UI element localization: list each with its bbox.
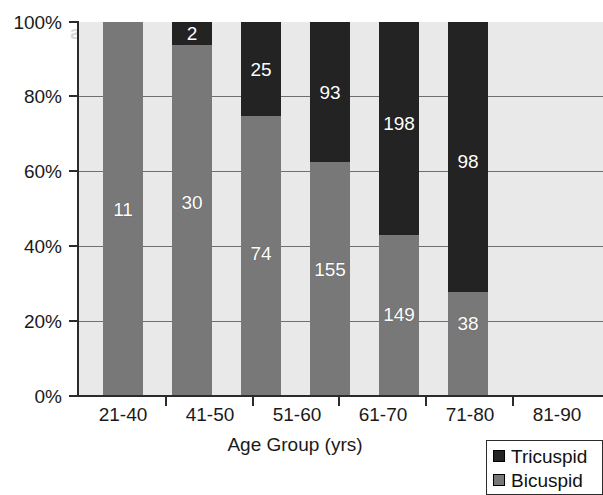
bar-81-90-bicuspid[interactable]: 38	[448, 292, 488, 396]
legend-item-tricuspid[interactable]: Tricuspid	[493, 444, 602, 468]
y-axis-line	[77, 21, 79, 397]
y-axis-label-80: 80%	[0, 87, 62, 106]
x-axis-label-51-60: 51-60	[252, 404, 342, 426]
legend-swatch-bicuspid-icon	[493, 474, 505, 486]
bar-81-90-bicuspid-value: 38	[457, 314, 478, 333]
bar-81-90-tricuspid-value: 98	[457, 152, 478, 171]
chart-canvas: se Distribution by Stenosis te for roup …	[0, 0, 603, 495]
bar-21-40-bicuspid-value: 11	[113, 200, 133, 219]
y-axis-label-100: 100%	[0, 13, 62, 32]
y-tick-80	[69, 95, 78, 97]
bar-61-70-bicuspid-value: 155	[314, 260, 346, 279]
y-axis-label-0: 0%	[0, 387, 62, 406]
bar-21-40-bicuspid[interactable]: 11	[103, 22, 143, 396]
y-tick-100	[69, 21, 78, 23]
bar-21-40[interactable]: 0 11	[103, 22, 143, 396]
bar-81-90[interactable]: 98 38	[448, 22, 488, 396]
bar-41-50-bicuspid-value: 30	[181, 193, 202, 212]
bar-71-80-tricuspid-value: 198	[383, 114, 415, 133]
y-tick-20	[69, 320, 78, 322]
y-axis-label-20: 20%	[0, 312, 62, 331]
y-axis-label-40: 40%	[0, 237, 62, 256]
chart-legend: Tricuspid Bicuspid	[486, 440, 603, 495]
bar-71-80[interactable]: 198 149	[379, 22, 419, 396]
bar-51-60-bicuspid-value: 74	[250, 244, 271, 263]
bar-51-60-tricuspid-value: 25	[250, 60, 271, 79]
legend-label-tricuspid: Tricuspid	[511, 447, 587, 466]
bar-41-50-tricuspid-value: 2	[187, 24, 198, 43]
x-axis-label-61-70: 61-70	[338, 404, 428, 426]
y-axis-tick-labels: 100% 80% 60% 40% 20% 0%	[0, 0, 68, 495]
bar-41-50[interactable]: 2 30	[172, 22, 212, 396]
bar-71-80-tricuspid[interactable]: 198	[379, 22, 419, 235]
bar-51-60[interactable]: 25 74	[241, 22, 281, 396]
plot-area: 0 11 2 30 25 74 93	[78, 22, 603, 396]
y-tick-60	[69, 170, 78, 172]
x-axis-title: Age Group (yrs)	[165, 434, 425, 456]
bar-41-50-bicuspid[interactable]: 30	[172, 45, 212, 396]
bar-71-80-bicuspid-value: 149	[383, 305, 415, 324]
legend-item-bicuspid[interactable]: Bicuspid	[493, 468, 602, 492]
y-tick-0	[69, 395, 78, 397]
bar-61-70-bicuspid[interactable]: 155	[310, 162, 350, 396]
legend-label-bicuspid: Bicuspid	[511, 471, 583, 490]
bar-61-70[interactable]: 93 155	[310, 22, 350, 396]
bar-61-70-tricuspid[interactable]: 93	[310, 22, 350, 162]
y-tick-40	[69, 245, 78, 247]
bar-51-60-tricuspid[interactable]: 25	[241, 22, 281, 116]
x-axis-label-81-90: 81-90	[512, 404, 602, 426]
bar-51-60-bicuspid[interactable]: 74	[241, 116, 281, 396]
bar-71-80-bicuspid[interactable]: 149	[379, 235, 419, 396]
x-axis-label-71-80: 71-80	[425, 404, 515, 426]
y-axis-label-60: 60%	[0, 162, 62, 181]
bar-41-50-tricuspid[interactable]: 2	[172, 22, 212, 45]
x-axis-label-41-50: 41-50	[165, 404, 255, 426]
x-axis-label-21-40: 21-40	[78, 404, 168, 426]
bar-61-70-tricuspid-value: 93	[319, 83, 340, 102]
x-axis-line	[77, 395, 603, 397]
bar-81-90-tricuspid[interactable]: 98	[448, 22, 488, 292]
legend-swatch-tricuspid-icon	[493, 450, 505, 462]
